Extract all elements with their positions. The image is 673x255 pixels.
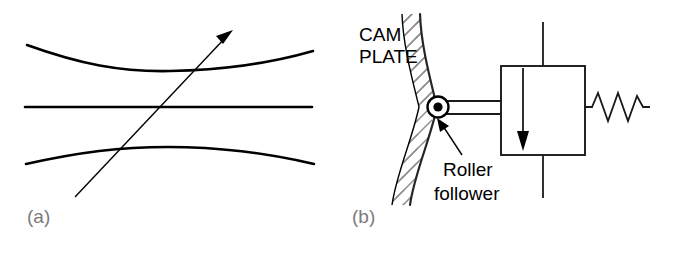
figure-svg: (a)	[0, 0, 673, 255]
figure-canvas: (a)	[0, 0, 673, 255]
panel-a-label: (a)	[27, 206, 50, 227]
roller-follower-label-line1: Roller	[443, 159, 493, 180]
mass-block	[501, 66, 585, 155]
cam-plate-label-line2: PLATE	[359, 46, 418, 67]
cam-plate-label-line1: CAM	[359, 24, 401, 45]
roller-follower-label-line2: follower	[434, 183, 500, 204]
roller-center-dot	[433, 102, 442, 111]
panel-b-label: (b)	[352, 206, 375, 227]
